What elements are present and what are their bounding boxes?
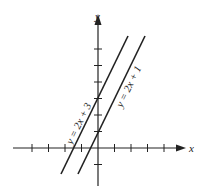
x-axis-arrow-icon: [176, 145, 186, 152]
y-axis-label: y: [94, 10, 100, 22]
graph: x y y = 2x + 3 y = 2x + 1: [0, 0, 202, 194]
x-axis-label: x: [188, 142, 194, 154]
